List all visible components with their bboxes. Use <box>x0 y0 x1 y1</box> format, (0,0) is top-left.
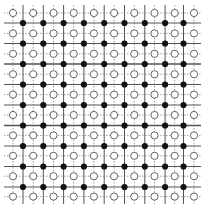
open-circle-icon <box>50 111 57 118</box>
filled-dot-icon <box>142 143 148 149</box>
open-circle-icon <box>70 173 77 180</box>
filled-dot-icon <box>142 102 148 108</box>
open-circle-icon <box>70 50 77 57</box>
open-circle-icon <box>50 9 57 16</box>
open-circle-icon <box>171 30 178 37</box>
filled-dot-icon <box>81 143 87 149</box>
filled-dot-icon <box>81 122 87 128</box>
open-circle-icon <box>90 173 97 180</box>
open-circle-icon <box>9 132 16 139</box>
open-circle-icon <box>131 71 138 78</box>
filled-dot-icon <box>61 61 67 67</box>
filled-dot-icon <box>162 61 168 67</box>
filled-dot-icon <box>40 184 46 190</box>
open-circle-icon <box>131 30 138 37</box>
filled-dot-icon <box>40 40 46 46</box>
filled-dot-icon <box>101 143 107 149</box>
open-circle-icon <box>90 30 97 37</box>
open-circle-icon <box>50 91 57 98</box>
filled-dot-icon <box>40 81 46 87</box>
open-circle-icon <box>70 152 77 159</box>
open-circle-icon <box>50 50 57 57</box>
open-circle-icon <box>111 193 118 200</box>
open-circle-icon <box>190 152 197 159</box>
open-circle-icon <box>171 50 178 57</box>
open-circle-icon <box>30 132 37 139</box>
open-circle-icon <box>9 30 16 37</box>
open-circle-icon <box>190 71 197 78</box>
open-circle-icon <box>151 111 158 118</box>
open-circle-icon <box>151 132 158 139</box>
filled-dot-icon <box>40 163 46 169</box>
open-circle-icon <box>190 173 197 180</box>
open-circle-icon <box>171 173 178 180</box>
open-circle-icon <box>111 111 118 118</box>
open-circle-icon <box>9 173 16 180</box>
open-circle-icon <box>50 30 57 37</box>
filled-dot-icon <box>162 102 168 108</box>
open-circle-icon <box>131 111 138 118</box>
filled-dot-icon <box>20 61 26 67</box>
open-circle-icon <box>190 30 197 37</box>
open-circle-icon <box>171 111 178 118</box>
filled-dot-icon <box>180 184 186 190</box>
open-circle-icon <box>131 91 138 98</box>
filled-dot-icon <box>101 184 107 190</box>
open-circle-icon <box>9 152 16 159</box>
open-circle-icon <box>90 111 97 118</box>
open-circle-icon <box>131 132 138 139</box>
filled-dot-icon <box>20 143 26 149</box>
open-circle-icon <box>151 9 158 16</box>
open-circle-icon <box>190 132 197 139</box>
filled-dot-icon <box>61 184 67 190</box>
filled-dot-icon <box>81 61 87 67</box>
filled-dot-icon <box>180 40 186 46</box>
filled-dot-icon <box>180 102 186 108</box>
open-circle-icon <box>190 9 197 16</box>
open-circle-icon <box>131 9 138 16</box>
open-circle-icon <box>9 9 16 16</box>
open-circle-icon <box>70 132 77 139</box>
open-circle-icon <box>151 30 158 37</box>
open-circle-icon <box>50 71 57 78</box>
open-circle-icon <box>30 71 37 78</box>
filled-dot-icon <box>180 122 186 128</box>
filled-dot-icon <box>142 20 148 26</box>
open-circle-icon <box>9 50 16 57</box>
filled-dot-icon <box>20 184 26 190</box>
filled-dot-icon <box>162 163 168 169</box>
open-circle-icon <box>30 152 37 159</box>
filled-dot-icon <box>20 40 26 46</box>
filled-dot-icon <box>61 122 67 128</box>
filled-dot-icon <box>81 184 87 190</box>
open-circle-icon <box>111 50 118 57</box>
open-circle-icon <box>131 173 138 180</box>
filled-dot-icon <box>162 20 168 26</box>
filled-dot-icon <box>101 20 107 26</box>
open-circle-icon <box>171 91 178 98</box>
filled-dot-icon <box>61 40 67 46</box>
filled-dot-icon <box>101 61 107 67</box>
open-circle-icon <box>9 91 16 98</box>
filled-dot-icon <box>162 184 168 190</box>
filled-dot-icon <box>20 122 26 128</box>
filled-dot-icon <box>61 163 67 169</box>
filled-dot-icon <box>142 61 148 67</box>
filled-dot-icon <box>180 163 186 169</box>
open-circle-icon <box>50 193 57 200</box>
lattice-diagram <box>0 0 209 211</box>
open-circle-icon <box>30 111 37 118</box>
filled-dot-icon <box>20 20 26 26</box>
open-circle-icon <box>90 152 97 159</box>
open-circle-icon <box>90 71 97 78</box>
filled-dot-icon <box>101 122 107 128</box>
open-circle-icon <box>30 50 37 57</box>
filled-dot-icon <box>121 163 127 169</box>
filled-dot-icon <box>162 143 168 149</box>
filled-dot-icon <box>142 81 148 87</box>
filled-dot-icon <box>40 61 46 67</box>
open-circle-icon <box>190 193 197 200</box>
open-circle-icon <box>151 152 158 159</box>
filled-dot-icon <box>81 40 87 46</box>
open-circle-icon <box>90 132 97 139</box>
